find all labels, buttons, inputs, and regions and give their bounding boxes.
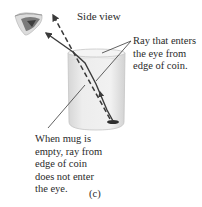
empty-mug-label: When mug is empty, ray from edge of coin…	[35, 133, 102, 196]
mug	[68, 49, 125, 130]
label-line: Ray that enters	[133, 35, 196, 48]
label-line: edge of coin	[35, 158, 102, 171]
label-line: When mug is	[35, 133, 102, 146]
label-line: edge of coin.	[133, 60, 196, 73]
diagram: Side view Ray that enters the eye from e…	[0, 0, 202, 207]
label-line: does not enter	[35, 171, 102, 184]
label-line: empty, ray from	[35, 146, 102, 159]
figure-caption: (c)	[89, 188, 101, 201]
eye-icon	[15, 13, 42, 35]
view-title: Side view	[77, 10, 121, 23]
entering-ray-label: Ray that enters the eye from edge of coi…	[133, 35, 196, 73]
label-line: the eye from	[133, 48, 196, 61]
